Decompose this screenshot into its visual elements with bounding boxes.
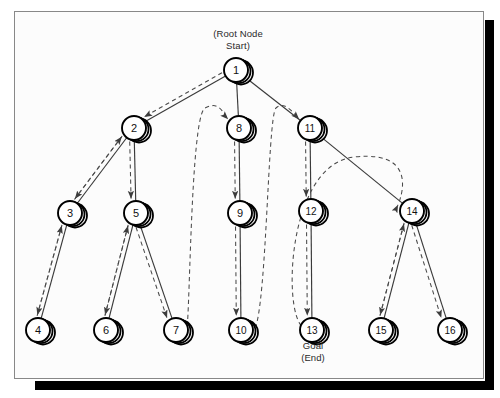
traversal-descend-8-9 [235, 142, 236, 199]
tree-node-label-16: 16 [444, 325, 456, 336]
traversal-descend-12-13 [307, 225, 308, 316]
traversal-descend-9-10 [236, 227, 237, 316]
tree-node-4[interactable]: 4 [26, 318, 55, 345]
traversal-backtrack-curve-10-11 [251, 106, 299, 334]
tree-edge-12-13 [311, 223, 312, 317]
tree-node-7[interactable]: 7 [164, 318, 193, 345]
tree-node-8[interactable]: 8 [227, 116, 256, 143]
tree-node-label-8: 8 [236, 122, 242, 134]
tree-edge-8-9 [239, 140, 240, 200]
tree-node-16[interactable]: 16 [438, 318, 467, 345]
traversal-descend-5-7 [136, 227, 167, 318]
tree-edge-2-5 [134, 140, 135, 200]
tree-node-label-1: 1 [233, 64, 239, 76]
tree-node-label-12: 12 [305, 206, 317, 217]
tree-edge-2-3 [78, 138, 127, 203]
traversal-backtrack-curve-7-8 [186, 106, 228, 334]
tree-node-5[interactable]: 5 [124, 201, 153, 228]
tree-node-6[interactable]: 6 [94, 318, 123, 345]
traversal-descend-2-5 [130, 142, 131, 199]
tree-node-label-2: 2 [131, 122, 137, 134]
tree-edge-5-7 [140, 225, 172, 318]
tree-node-15[interactable]: 15 [369, 318, 398, 345]
traversal-backtrack-4-3 [37, 226, 62, 316]
traversal-backtrack-curve-13-14 [292, 156, 402, 328]
tree-edge-14-16 [416, 223, 446, 318]
tree-node-label-6: 6 [103, 324, 109, 336]
tree-node-label-7: 7 [173, 324, 179, 336]
tree-node-label-5: 5 [133, 207, 139, 219]
traversal-descend-11-12 [306, 142, 307, 197]
tree-node-label-13: 13 [306, 325, 318, 336]
tree-edge-14-15 [384, 223, 409, 318]
tree-edge-layer [41, 76, 446, 318]
tree-edge-11-14 [320, 136, 403, 203]
tree-node-10[interactable]: 10 [229, 318, 258, 345]
tree-edge-1-11 [246, 78, 300, 121]
tree-edge-3-4 [41, 225, 66, 318]
traversal-backtrack-3-2 [74, 137, 121, 200]
tree-edge-11-12 [310, 140, 311, 198]
tree-node-9[interactable]: 9 [228, 201, 257, 228]
tree-node-1[interactable]: 1 [224, 58, 253, 85]
tree-node-3[interactable]: 3 [58, 201, 87, 228]
tree-node-11[interactable]: 11 [298, 116, 327, 143]
tree-node-label-3: 3 [67, 207, 73, 219]
tree-node-label-15: 15 [375, 325, 387, 336]
tree-edge-1-2 [145, 76, 225, 122]
tree-node-label-11: 11 [305, 123, 316, 134]
root-node-annotation: (Root Node Start) [186, 28, 290, 51]
tree-node-label-14: 14 [406, 206, 418, 217]
tree-node-label-10: 10 [235, 325, 247, 336]
traversal-descend-1-2 [144, 73, 222, 117]
tree-diagram-canvas: 12345678910111213141516 [0, 0, 500, 398]
tree-edge-1-8 [237, 82, 239, 115]
tree-node-label-9: 9 [237, 207, 243, 219]
tree-node-14[interactable]: 14 [400, 199, 429, 226]
figure-page: 12345678910111213141516 (Root Node Start… [0, 0, 500, 398]
goal-node-annotation: Goal (End) [283, 340, 343, 363]
tree-edge-5-6 [109, 225, 133, 318]
traversal-descend-14-16 [412, 225, 441, 317]
tree-edge-9-10 [240, 225, 241, 317]
tree-node-label-4: 4 [35, 324, 41, 336]
tree-node-12[interactable]: 12 [299, 199, 328, 226]
